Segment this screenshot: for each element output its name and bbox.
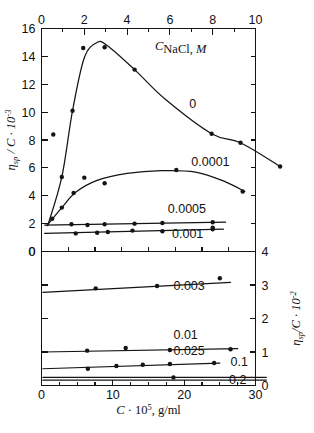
data-point — [50, 217, 54, 221]
bottom-axis-tick-label: 30 — [249, 388, 263, 402]
data-point — [102, 45, 106, 49]
data-point — [168, 362, 172, 366]
data-point — [82, 175, 86, 179]
left-axis-tick-label: 16 — [22, 22, 36, 36]
series-label-0.0005: 0.0005 — [168, 202, 206, 216]
data-point — [70, 109, 74, 113]
top-axis-tick-label: 4 — [124, 13, 131, 27]
series-label-0.0001: 0.0001 — [191, 155, 229, 169]
top-axis-tick-label: 2 — [81, 13, 88, 27]
upper-panel-group: 0246810024681012141604 00.00010.00050.00… — [22, 13, 283, 260]
series-label-0.01: 0.01 — [173, 328, 197, 342]
data-point — [81, 46, 85, 50]
data-point — [168, 348, 172, 352]
data-point — [95, 230, 99, 234]
data-point — [155, 284, 159, 288]
legend-title: CNaCl, M — [155, 39, 207, 56]
series-label-0.001: 0.001 — [172, 227, 203, 241]
top-axis-tick-label: 10 — [249, 13, 263, 27]
data-point — [160, 229, 164, 233]
data-point — [86, 367, 90, 371]
chart-svg: 0246810024681012141604 00.00010.00050.00… — [0, 0, 314, 433]
data-point — [106, 230, 110, 234]
figure-root: 0246810024681012141604 00.00010.00050.00… — [0, 0, 314, 433]
upper-panel-curves — [45, 41, 280, 233]
left-axis-tick-label: 4 — [29, 189, 36, 203]
right-axis-tick-label: 1 — [262, 346, 269, 360]
data-point — [60, 175, 64, 179]
lower-panel-group: 01020300123 0.0030.010.0250.10.2 — [38, 252, 268, 402]
top-axis-tick-label: 0 — [38, 13, 45, 27]
top-axis-tick-label: 6 — [166, 13, 173, 27]
right-axis-tick-label: 3 — [262, 279, 269, 293]
data-point — [71, 191, 75, 195]
series-label-0: 0 — [189, 97, 196, 111]
bottom-axis-tick-label: 20 — [177, 388, 191, 402]
data-point — [209, 132, 213, 136]
data-point — [74, 231, 78, 235]
left-axis-title: ηsp / C · 10-3 — [3, 110, 20, 171]
left-axis-tick-label: 2 — [29, 217, 36, 231]
left-axis-tick-label: 12 — [22, 78, 36, 92]
data-point — [171, 375, 175, 379]
data-point — [238, 141, 242, 145]
right-axis-tick-label-four: 4 — [262, 245, 269, 259]
legend-title-text: CNaCl, M — [155, 39, 207, 56]
right-axis-tick-label: 2 — [262, 312, 269, 326]
data-point — [211, 220, 215, 224]
upper-panel-axes: 0246810024681012141604 — [22, 13, 269, 260]
data-point — [130, 228, 134, 232]
data-point — [94, 286, 98, 290]
bottom-axis-tick-label: 0 — [38, 388, 45, 402]
left-axis-tick-label: 14 — [22, 50, 36, 64]
data-point — [114, 364, 118, 368]
upper-panel-frame — [42, 29, 256, 252]
left-axis-tick-label: 10 — [22, 106, 36, 120]
data-point — [211, 227, 215, 231]
bottom-axis-title: C · 105, g/ml — [116, 402, 181, 417]
series-label-0.003: 0.003 — [173, 279, 204, 293]
data-point — [212, 361, 216, 365]
data-point — [85, 348, 89, 352]
right-axis-tick-label: 0 — [262, 379, 269, 393]
series-curve-0.01 — [43, 349, 238, 352]
lower-panel-series-labels: 0.0030.010.0250.10.2 — [173, 279, 247, 386]
left-axis-tick-label: 8 — [29, 134, 36, 148]
data-point — [278, 164, 282, 168]
series-curve-0.0001 — [47, 171, 245, 226]
data-point — [141, 363, 145, 367]
data-point — [51, 132, 55, 136]
left-axis-tick-label: 6 — [29, 161, 36, 175]
left-axis-tick-label-zero: 0 — [29, 245, 36, 259]
axis-titles: ηsp / C · 10-3ηsp/C · 10-2C · 105, g/ml — [3, 110, 305, 417]
data-point — [60, 205, 64, 209]
top-axis-tick-label: 8 — [209, 13, 216, 27]
data-point — [160, 221, 164, 225]
data-point — [102, 181, 106, 185]
data-point — [218, 276, 222, 280]
data-point — [240, 189, 244, 193]
series-curve-0.025 — [43, 363, 220, 369]
series-curve-0 — [48, 41, 280, 225]
series-label-0.1: 0.1 — [231, 355, 248, 369]
upper-panel-points — [50, 45, 282, 235]
data-point — [102, 222, 106, 226]
bottom-axis-tick-label: 10 — [106, 388, 120, 402]
lower-panel-points — [85, 276, 233, 380]
series-label-0.2: 0.2 — [229, 373, 246, 387]
right-axis-title: ηsp/C · 10-2 — [288, 290, 305, 345]
series-label-0.025: 0.025 — [173, 344, 204, 358]
data-point — [85, 223, 89, 227]
data-point — [132, 221, 136, 225]
data-point — [174, 168, 178, 172]
data-point — [69, 222, 73, 226]
data-point — [228, 347, 232, 351]
data-point — [123, 346, 127, 350]
data-point — [132, 67, 136, 71]
